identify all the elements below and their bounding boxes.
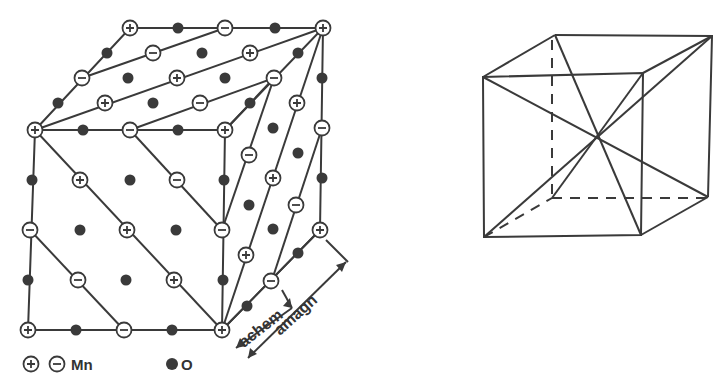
legend-mn-minus-icon — [50, 357, 65, 372]
figure-canvas: achem amagn Mn O — [0, 0, 713, 388]
legend-mn-label: Mn — [71, 356, 93, 373]
legend-o-icon — [166, 358, 178, 370]
legend-o-label: O — [181, 356, 193, 373]
legend: Mn O — [24, 356, 194, 373]
right-cube — [483, 35, 712, 237]
legend-mn-plus-icon — [24, 357, 39, 372]
